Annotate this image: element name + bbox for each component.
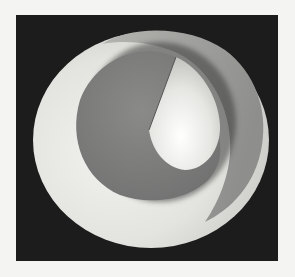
spiral-shell-figure xyxy=(0,0,295,277)
